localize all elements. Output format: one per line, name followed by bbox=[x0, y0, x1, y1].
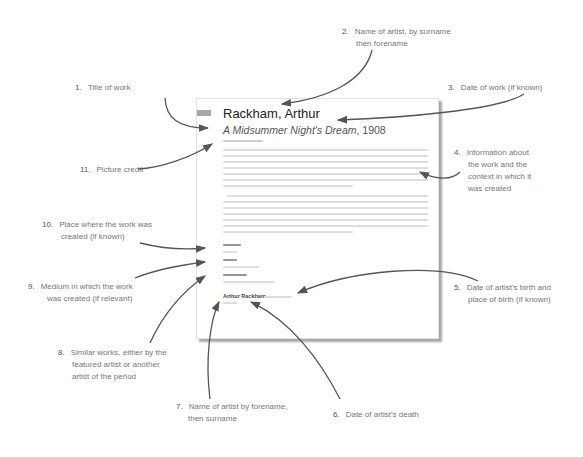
artist-birth-info bbox=[264, 296, 292, 298]
artist-signature: Arthur Rackham bbox=[223, 293, 266, 299]
work-date: , 1908 bbox=[356, 124, 385, 136]
text-line bbox=[227, 195, 428, 197]
annotation-4: 4.Information about the work and the con… bbox=[454, 147, 531, 195]
text-line bbox=[223, 167, 428, 169]
artist-heading: Rackham, Arthur bbox=[223, 106, 320, 121]
page-tab-marker bbox=[197, 110, 211, 116]
medium-value bbox=[223, 266, 259, 268]
place-value bbox=[223, 251, 237, 253]
annotation-7: 7.Name of artist by forename, then surna… bbox=[176, 401, 287, 425]
picture-credit-text bbox=[223, 140, 263, 142]
text-line bbox=[223, 219, 428, 221]
arrow-2 bbox=[282, 50, 372, 104]
artist-death-date bbox=[223, 302, 237, 304]
annotation-9: 9.Medium in which the work was created (… bbox=[28, 281, 133, 305]
sample-page: Rackham, Arthur A Midsummer Night's Drea… bbox=[196, 98, 439, 339]
annotation-8: 8.Similar works, either by the featured … bbox=[58, 347, 167, 383]
similar-works-value bbox=[223, 281, 275, 283]
text-line bbox=[223, 231, 353, 233]
text-line bbox=[223, 201, 428, 203]
annotation-6: 6.Date of artist's death bbox=[333, 409, 419, 421]
text-line bbox=[223, 185, 353, 187]
text-line bbox=[223, 149, 428, 151]
annotation-11: 11.Picture credit bbox=[80, 164, 143, 176]
text-line bbox=[223, 179, 428, 181]
similar-works-heading bbox=[223, 274, 247, 276]
annotation-2: 2.Name of artist, by surname then forena… bbox=[342, 26, 451, 50]
text-line bbox=[223, 213, 428, 215]
text-line bbox=[223, 155, 428, 157]
text-line bbox=[223, 207, 428, 209]
text-line bbox=[223, 173, 428, 175]
work-title: A Midsummer Night's Dream bbox=[223, 124, 356, 136]
annotation-5: 5.Date of artist's birth and place of bi… bbox=[454, 282, 551, 306]
medium-heading bbox=[223, 259, 237, 261]
text-line bbox=[223, 161, 428, 163]
arrow-9 bbox=[135, 262, 205, 278]
annotation-3: 3.Date of work (if known) bbox=[448, 82, 542, 94]
text-line bbox=[223, 225, 428, 227]
annotation-10: 10.Place where the work was created (if … bbox=[42, 219, 152, 243]
work-title-line: A Midsummer Night's Dream, 1908 bbox=[223, 124, 386, 136]
annotation-1: 1.Title of work bbox=[75, 82, 131, 94]
place-heading bbox=[223, 244, 241, 246]
